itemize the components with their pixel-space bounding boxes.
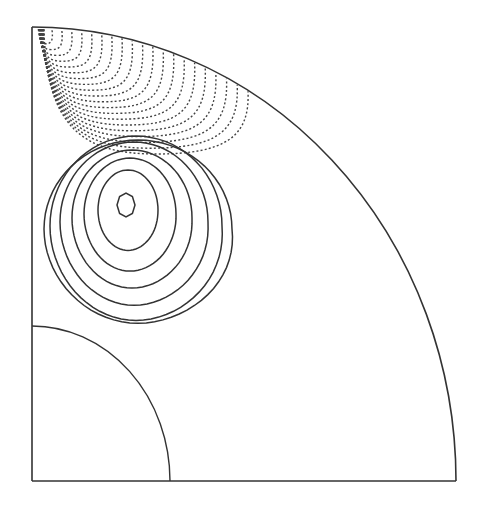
domain-boundary xyxy=(32,27,456,481)
outer-arc-boundary xyxy=(32,27,456,481)
contour-plot xyxy=(0,0,485,510)
solid-contour xyxy=(50,136,222,321)
dashed-contour xyxy=(43,29,195,125)
inner-arc-boundary xyxy=(32,326,170,481)
dashed-contour xyxy=(44,29,248,154)
contour-figure xyxy=(0,0,485,510)
positive-contours-solid xyxy=(44,136,233,323)
solid-contour xyxy=(44,140,233,323)
negative-contours-dashed xyxy=(38,29,248,155)
solid-contour xyxy=(98,170,158,250)
dashed-contour xyxy=(40,29,92,67)
solid-contour xyxy=(60,142,208,305)
dashed-contour xyxy=(41,29,133,90)
solid-contour xyxy=(117,193,135,217)
dashed-contour xyxy=(43,29,206,131)
dashed-contour xyxy=(40,29,122,84)
